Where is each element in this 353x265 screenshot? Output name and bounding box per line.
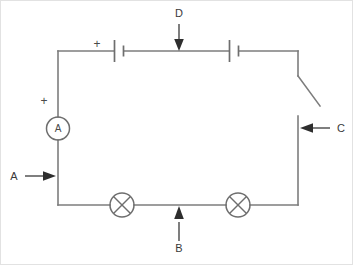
- callout-d-label: D: [175, 7, 183, 19]
- battery-cell-one: [115, 40, 124, 62]
- callout-c-arrow-head: [300, 123, 313, 133]
- ammeter-symbol-letter: A: [55, 123, 62, 134]
- ammeter: A: [47, 117, 70, 140]
- circuit-diagram: + A +: [0, 0, 353, 265]
- ammeter-plus-label: +: [40, 94, 47, 108]
- callout-b-label: B: [175, 242, 182, 254]
- callout-a: A: [10, 170, 56, 182]
- callout-a-label: A: [10, 170, 18, 182]
- callout-b: B: [174, 206, 184, 254]
- lamp-one: [110, 193, 134, 217]
- callout-b-arrow-head: [174, 206, 184, 219]
- open-switch[interactable]: [298, 76, 320, 106]
- circuit-schematic-svg: + A +: [0, 0, 353, 265]
- callout-c: C: [300, 122, 345, 134]
- callout-d: D: [174, 7, 184, 51]
- battery-cell-two: [230, 40, 239, 62]
- switch-blade[interactable]: [298, 76, 320, 106]
- callout-d-arrow-head: [174, 39, 184, 51]
- callout-c-label: C: [337, 122, 345, 134]
- lamp-two: [226, 193, 250, 217]
- callout-a-arrow-head: [43, 171, 56, 181]
- cell-one-plus-label: +: [93, 37, 100, 51]
